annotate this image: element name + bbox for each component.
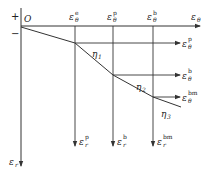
svg-text:b: b (123, 133, 127, 140)
svg-text:ε: ε (9, 157, 14, 167)
svg-text:e: e (75, 9, 79, 16)
strain-path-diagram: + − O ε e θ ε p θ ε b θ ε θ ε p θ ε b θ … (0, 0, 209, 173)
svg-text:bm: bm (188, 89, 198, 96)
svg-text:2: 2 (141, 86, 146, 93)
right-label-theta-p: ε p θ (182, 35, 192, 50)
svg-text:ε: ε (182, 93, 187, 103)
top-label-theta-e: ε e θ (69, 9, 79, 23)
svg-text:ε: ε (117, 137, 122, 147)
svg-text:r: r (85, 141, 89, 148)
minus-sign: − (11, 28, 19, 39)
svg-text:θ: θ (188, 97, 192, 104)
svg-text:ε: ε (107, 12, 112, 22)
svg-text:θ: θ (197, 16, 201, 23)
svg-text:ε: ε (182, 71, 187, 81)
svg-text:3: 3 (167, 113, 171, 120)
svg-text:θ: θ (188, 75, 192, 82)
axis-label-eps-theta: ε θ (191, 12, 201, 23)
svg-text:ε: ε (69, 12, 74, 22)
svg-text:θ: θ (153, 16, 157, 23)
slope-eta-3: η 3 (161, 109, 171, 120)
axis-label-eps-r: ε r (9, 157, 19, 168)
svg-text:b: b (188, 67, 192, 74)
svg-text:p: p (85, 133, 89, 141)
top-label-theta-b: ε b θ (147, 9, 157, 23)
svg-text:θ: θ (113, 16, 117, 23)
slope-eta-1: η 1 (92, 49, 102, 60)
svg-text:r: r (163, 141, 167, 148)
bottom-label-r-bm: ε bm r (157, 133, 173, 148)
svg-text:ε: ε (157, 137, 162, 147)
svg-text:ε: ε (182, 39, 187, 49)
origin-label: O (24, 14, 32, 24)
slope-eta-2: η 2 (136, 82, 146, 93)
svg-text:ε: ε (79, 137, 84, 147)
svg-text:ε: ε (191, 12, 196, 22)
bottom-label-r-p: ε p r (79, 133, 89, 148)
plus-sign: + (11, 11, 19, 22)
svg-text:bm: bm (163, 133, 173, 140)
svg-text:ε: ε (147, 12, 152, 22)
svg-text:1: 1 (98, 53, 102, 60)
svg-text:r: r (15, 161, 19, 168)
svg-text:r: r (123, 141, 127, 148)
right-label-theta-bm: ε bm θ (182, 89, 198, 104)
right-label-theta-b: ε b θ (182, 67, 192, 82)
strain-path (21, 27, 181, 107)
top-label-theta-p: ε p θ (107, 9, 117, 23)
bottom-label-r-b: ε b r (117, 133, 127, 148)
svg-text:θ: θ (188, 43, 192, 50)
svg-text:p: p (188, 35, 192, 43)
svg-text:b: b (153, 9, 157, 16)
svg-text:θ: θ (75, 16, 79, 23)
